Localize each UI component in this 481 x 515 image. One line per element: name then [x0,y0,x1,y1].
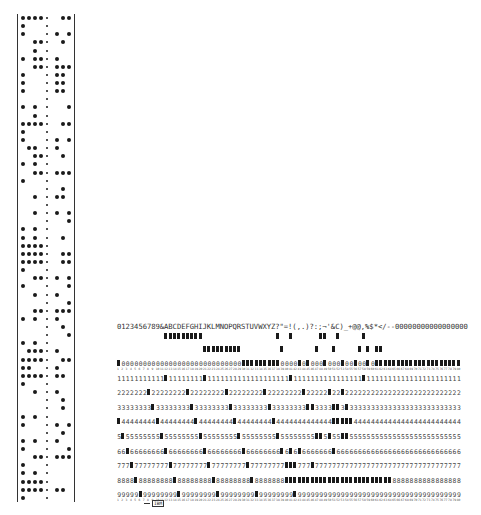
card-punch [207,462,210,468]
column-number: 10 [156,498,160,502]
tape-hole [33,16,37,20]
sprocket-hole [46,448,48,450]
column-number: 23 [212,498,216,502]
card-punch [375,477,378,483]
column-number: 28 [233,498,237,502]
sprocket-hole [46,212,48,214]
tape-hole [61,488,65,492]
tape-hole [27,252,31,256]
sprocket-hole [46,82,48,84]
card-punch [306,404,309,410]
tape-hole [33,471,37,475]
sprocket-hole [46,115,48,117]
card-punch [194,418,197,424]
card-digit: 8 [457,477,461,485]
sprocket-hole [46,391,48,393]
tape-hole [61,81,65,85]
tape-hole [33,244,37,248]
card-punch [194,333,197,339]
card-punch [323,477,326,483]
card-punch [151,404,154,410]
column-number: 54 [345,367,349,371]
sprocket-hole [46,163,48,165]
card-punch [117,418,120,424]
tape-hole [21,447,25,451]
column-number: 46 [311,498,315,502]
card-punch [341,389,344,395]
card-punch [285,462,288,468]
card-row-2: 2222222222222222222222222222222222222222… [117,389,467,397]
column-number: 65 [392,367,396,371]
column-number: 63 [384,367,388,371]
card-punch [379,346,382,352]
column-number: 73 [427,367,431,371]
card-punch [237,346,240,352]
card-punch [289,333,292,339]
column-number: 32 [250,367,254,371]
tape-hole [55,65,59,69]
tape-hole [33,57,37,61]
sprocket-hole [46,350,48,352]
card-punch [323,360,326,366]
column-number: 15 [177,367,181,371]
tape-hole [39,358,43,362]
column-number: 24 [216,367,220,371]
column-number: 71 [418,367,422,371]
card-punch [280,448,283,454]
card-punch [336,418,339,424]
card-digit: 2 [457,389,461,397]
card-punch [418,360,421,366]
tape-hole [61,325,65,329]
column-number: 9 [151,367,153,371]
card-punch [336,477,339,483]
tape-hole [61,89,65,93]
column-number: 78 [448,367,452,371]
column-number: 45 [306,498,310,502]
card-punch [328,389,331,395]
card-punch [147,389,150,395]
card-punch [341,477,344,483]
sprocket-hole [46,220,48,222]
tape-hole [55,374,59,378]
card-row-7: 7777777777777777777777777777777777777777… [117,462,467,470]
card-punch [341,433,344,439]
card-punch [315,433,318,439]
column-number: 77 [444,498,448,502]
tape-hole [55,276,59,280]
column-number: 77 [444,367,448,371]
card-punch [203,448,206,454]
column-number: 39 [280,498,284,502]
tape-hole [33,349,37,353]
sprocket-hole [46,481,48,483]
tape-hole [61,309,65,313]
tape-hole [55,211,59,215]
tape-hole [27,358,31,362]
card-punch [225,389,228,395]
card-punch [298,477,301,483]
tape-hole [55,317,59,321]
column-number: 7 [143,367,145,371]
tape-hole [39,480,43,484]
tape-hole [21,32,25,36]
column-number: 53 [341,498,345,502]
sprocket-hole [46,50,48,52]
column-number: 9 [151,498,153,502]
tape-hole [67,455,71,459]
card-punch [216,491,219,497]
card-punch [379,477,382,483]
card-punch [220,346,223,352]
sprocket-hole [46,131,48,133]
tape-hole [21,382,25,386]
tape-hole [21,439,25,443]
column-number: 59 [366,367,370,371]
tape-hole [55,349,59,353]
card-punch [341,418,344,424]
card-punch [414,360,417,366]
card-punch [388,360,391,366]
column-number: 26 [225,367,229,371]
column-number: 21 [203,367,207,371]
tape-hole [21,471,25,475]
column-number: 47 [315,498,319,502]
sprocket-hole [46,139,48,141]
column-number: 37 [272,367,276,371]
